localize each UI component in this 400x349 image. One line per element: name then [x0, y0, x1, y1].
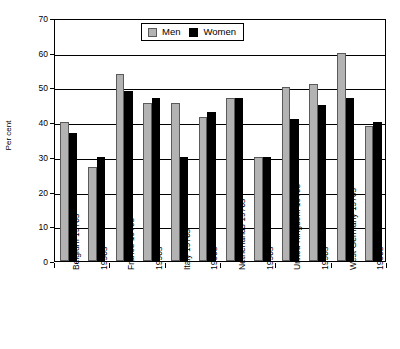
plot-area	[54, 19, 386, 262]
bar-men-0	[60, 122, 69, 261]
x-axis-group-tick	[220, 263, 221, 268]
bar-men-7	[254, 157, 263, 261]
bar-women-3	[152, 98, 161, 261]
bar-chart: Per cent 010203040506070 Belgium 1970s19…	[0, 0, 400, 349]
y-axis-tick-label: 70	[22, 15, 48, 23]
x-axis-group-tick	[275, 263, 276, 268]
legend-label-men: Men	[162, 27, 180, 37]
y-axis-tick-label: 60	[22, 50, 48, 58]
bar-men-3	[143, 103, 152, 261]
x-axis-tick-label: 1990s	[100, 247, 109, 270]
bar-men-11	[365, 126, 374, 261]
bar-men-5	[199, 117, 208, 261]
bar-women-9	[318, 105, 327, 261]
bar-women-1	[97, 157, 106, 261]
bar-women-5	[207, 112, 216, 261]
x-axis-tick-label: France 1970s	[127, 218, 136, 270]
x-axis-tick-label: Italy 1970s	[183, 229, 192, 270]
x-axis-group-tick	[331, 263, 332, 268]
legend-swatch-women	[189, 28, 198, 37]
x-axis-tick-label: United Kingdom 1970s	[293, 184, 302, 270]
x-axis-group-tick	[165, 263, 166, 268]
x-axis-group-tick	[54, 263, 55, 268]
x-axis-group-tick	[109, 263, 110, 268]
bar-women-11	[373, 122, 382, 261]
bar-men-9	[309, 84, 318, 261]
y-axis-title: Per cent	[2, 100, 16, 170]
bar-men-4	[171, 103, 180, 261]
x-axis-tick-label: 1990s	[376, 247, 385, 270]
x-axis-tick-label: West Germany 1970s	[349, 188, 358, 270]
y-axis-title-text: Per cent	[5, 120, 14, 150]
legend-label-women: Women	[203, 27, 236, 37]
bar-men-1	[88, 167, 97, 261]
legend-swatch-men	[148, 28, 157, 37]
x-axis-group-tick	[386, 263, 387, 268]
x-axis-tick-label: 1990s	[321, 247, 330, 270]
chart-legend: Men Women	[141, 23, 244, 41]
y-axis-tick-label: 10	[22, 223, 48, 231]
legend-item-women: Women	[189, 27, 236, 37]
x-axis-tick-label: Netherlands 1970s	[238, 199, 247, 270]
bar-men-2	[116, 74, 125, 261]
legend-item-men: Men	[148, 27, 180, 37]
y-axis-tick-label: 50	[22, 84, 48, 92]
bar-men-8	[282, 87, 291, 261]
bar-series-container	[55, 20, 385, 261]
bar-men-6	[226, 98, 235, 261]
y-axis-tick-label: 20	[22, 189, 48, 197]
x-axis-tick-label: 1990s	[210, 247, 219, 270]
bar-women-7	[263, 157, 272, 261]
bar-men-10	[337, 53, 346, 261]
x-axis-tick-label: Belgium 1970s	[72, 214, 81, 270]
y-axis-tick-label: 30	[22, 154, 48, 162]
y-axis-tick-label: 0	[22, 258, 48, 266]
x-axis-tick-label: 1990s	[155, 247, 164, 270]
x-axis-tick-label: 1990s	[266, 247, 275, 270]
y-axis-tick-label: 40	[22, 119, 48, 127]
